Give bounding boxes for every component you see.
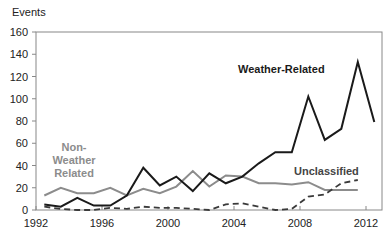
label-non-weather-line3: Related [54, 167, 94, 179]
series-lines [44, 62, 374, 210]
y-tick-label: 80 [16, 115, 28, 127]
y-tick-label: 60 [16, 137, 28, 149]
x-tick-label: 1992 [24, 217, 48, 229]
x-tick-label: 2000 [156, 217, 180, 229]
x-tick-label: 2012 [354, 217, 378, 229]
plot-frame [36, 32, 382, 210]
y-axis: 020406080100120140160 [10, 26, 36, 216]
x-tick-label: 2008 [288, 217, 312, 229]
y-tick-label: 100 [10, 93, 28, 105]
label-non-weather-line2: Weather [52, 154, 96, 166]
label-weather-related: Weather-Related [238, 63, 325, 75]
y-tick-label: 0 [22, 204, 28, 216]
y-tick-label: 20 [16, 182, 28, 194]
series-weather-related [44, 62, 374, 207]
x-tick-label: 1996 [90, 217, 114, 229]
events-line-chart: Events 020406080100120140160 19921996200… [0, 0, 391, 236]
y-tick-label: 140 [10, 48, 28, 60]
y-tick-label: 120 [10, 71, 28, 83]
y-axis-title: Events [12, 6, 46, 18]
label-non-weather-line1: Non- [61, 141, 86, 153]
x-tick-label: 2004 [222, 217, 246, 229]
y-tick-label: 160 [10, 26, 28, 38]
y-tick-label: 40 [16, 160, 28, 172]
label-unclassified: Unclassified [294, 165, 359, 177]
